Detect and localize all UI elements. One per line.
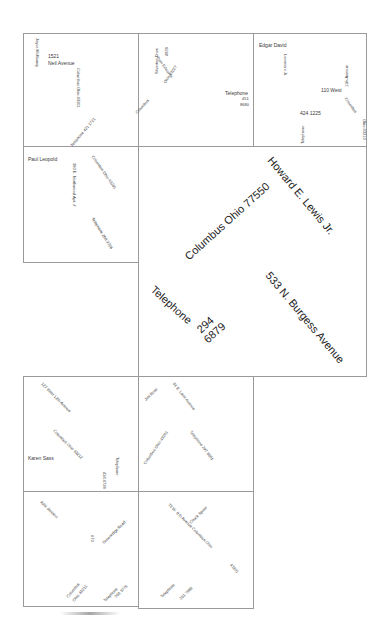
card-name: Paul Leopold [28, 157, 57, 162]
address-card-speer: Chuck Speer 76 W. 8 th Avenue Columbus O… [138, 491, 254, 609]
card-state-zip: Ohio 43210 [362, 119, 366, 140]
card-name: Chuck Speer [189, 506, 208, 525]
card-name: Edgar David [259, 43, 287, 48]
card-name: Joyce McKinney [35, 38, 39, 67]
card-city: Columbus Ohio 43201 [76, 68, 80, 108]
address-card-sass: 127 West 12th Avenue Columbus Ohio 43212… [23, 376, 139, 492]
card-telephone-1: 451 [242, 97, 249, 101]
card-telephone: Telephone 297 8881 [189, 430, 214, 461]
address-card-rose: Jim Rose 81 E. Lane Avenue Columbus Ohio… [138, 376, 254, 492]
card-name-suffix: Lemmers Jr. [283, 54, 287, 76]
card-street-number: 4839 [165, 47, 169, 56]
card-name: Howard E. Lewis Jr. [266, 155, 337, 237]
address-card-edwards: Silverton Drive 4839 Pam Edwards Ohio 43… [138, 33, 254, 147]
card-street-number: #70 [90, 535, 94, 542]
card-street: 380 E. Northwood Apt. # [72, 163, 76, 206]
card-telephone-label: Telephone [301, 126, 305, 144]
card-telephone-2: 8680 [240, 103, 249, 107]
card-phone-number: 424 1225 [300, 111, 321, 116]
card-name: Julia Jenison [39, 500, 58, 519]
card-street-number: 1521 [48, 54, 59, 59]
page-shadow [60, 612, 120, 615]
card-city: Columbus Ohio 43201 [143, 430, 169, 465]
card-name: Karen Sass [28, 456, 54, 461]
address-card-david: Edgar David Lemmers Jr. 110 West 11th Av… [253, 33, 367, 147]
card-telephone-label: Telephone [115, 457, 119, 475]
address-card-mckinney: Joyce McKinney 1521 Neil Avenue Columbus… [23, 33, 139, 147]
card-street: 11th Avenue [345, 65, 349, 87]
card-street: 81 E. Lane Avenue [172, 382, 196, 411]
card-city: Columbus Ohio 43212 [52, 429, 83, 460]
card-city: Columbus Ohio 77550 [183, 181, 272, 262]
card-city: Columbus [344, 97, 358, 114]
card-street: Neil Avenue [48, 61, 75, 66]
card-name: Jim Rose [144, 387, 159, 402]
address-card-leopold: Paul Leopold 380 E. Northwood Apt. # Col… [23, 146, 139, 263]
card-street: 533 N. Burgess Avenue [264, 270, 347, 365]
card-city: Columbus [135, 99, 150, 115]
card-street-number: 110 West [321, 88, 342, 93]
address-card-jenison: Julia Jenison #70 Greenridge Road Columb… [23, 491, 139, 607]
card-telephone: Telephone 268 3726 [91, 217, 114, 250]
card-telephone-label: Telephone [149, 284, 194, 326]
card-telephone-number: 424 4728 [102, 472, 106, 489]
card-telephone-number: 291 7988 [179, 586, 194, 601]
card-street: Greenridge Road [102, 520, 127, 545]
card-zip: 43201 [229, 563, 239, 574]
card-telephone-label: Telephone [160, 583, 176, 599]
card-city: Columbus Ohio 43201 [91, 155, 117, 190]
card-telephone: Telephone 421 1721 [70, 117, 96, 147]
address-card-lewis: Columbus Ohio 77550 Howard E. Lewis Jr. … [138, 146, 367, 377]
card-street: 127 West 12th Avenue [40, 382, 71, 413]
